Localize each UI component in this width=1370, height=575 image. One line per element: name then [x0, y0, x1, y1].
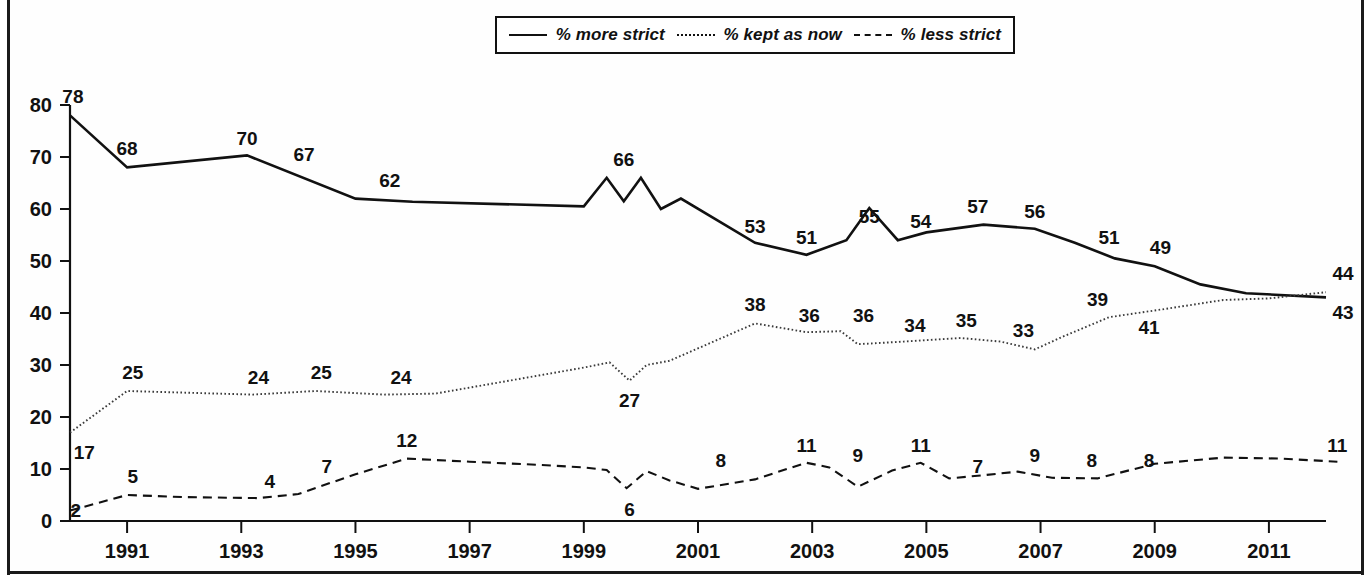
y-tick-label: 20: [30, 406, 52, 428]
x-tick-label: 1999: [562, 540, 607, 562]
data-label-kept-as-now: 35: [956, 310, 978, 331]
data-label-less-strict: 7: [322, 456, 333, 477]
x-tick-label: 1997: [447, 540, 492, 562]
data-label-kept-as-now: 17: [74, 442, 95, 463]
data-label-more-strict: 43: [1333, 302, 1354, 323]
chart-figure: % more strict % kept as now % less stric…: [0, 0, 1370, 575]
x-tick-label: 2009: [1132, 540, 1177, 562]
data-label-layer: 7868706762665351555457565149431725242524…: [62, 86, 1354, 520]
x-tick-label: 1991: [105, 540, 150, 562]
data-label-kept-as-now: 39: [1087, 289, 1108, 310]
data-label-more-strict: 55: [859, 206, 881, 227]
data-label-less-strict: 11: [1327, 435, 1348, 456]
y-tick-label: 10: [30, 458, 52, 480]
series-line-more-strict: [70, 115, 1326, 297]
data-label-kept-as-now: 27: [619, 390, 640, 411]
x-tick-label: 2001: [676, 540, 721, 562]
x-axis: 1991199319951997199920012003200520072009…: [70, 521, 1326, 562]
data-label-less-strict: 6: [624, 499, 635, 520]
data-label-kept-as-now: 36: [799, 305, 820, 326]
data-label-less-strict: 8: [716, 450, 727, 471]
data-label-kept-as-now: 34: [904, 315, 926, 336]
data-label-more-strict: 66: [613, 149, 634, 170]
data-label-more-strict: 56: [1024, 201, 1045, 222]
chart-plot-area: 01020304050607080 1991199319951997199920…: [0, 0, 1370, 575]
y-tick-label: 40: [30, 302, 52, 324]
x-tick-label: 1993: [219, 540, 264, 562]
data-label-kept-as-now: 24: [391, 367, 413, 388]
data-label-kept-as-now: 38: [745, 294, 766, 315]
data-label-less-strict: 12: [396, 430, 417, 451]
data-label-more-strict: 53: [745, 216, 766, 237]
data-label-less-strict: 7: [972, 456, 983, 477]
y-tick-label: 50: [30, 250, 52, 272]
data-label-more-strict: 51: [1099, 227, 1121, 248]
y-tick-label: 30: [30, 354, 52, 376]
data-label-kept-as-now: 44: [1333, 263, 1355, 284]
data-label-more-strict: 67: [294, 144, 315, 165]
y-tick-label: 0: [41, 510, 52, 532]
data-label-less-strict: 8: [1144, 450, 1155, 471]
data-label-more-strict: 68: [117, 138, 138, 159]
y-axis: 01020304050607080: [30, 94, 70, 532]
x-tick-label: 1995: [333, 540, 378, 562]
data-label-more-strict: 51: [796, 227, 818, 248]
data-label-less-strict: 11: [911, 435, 932, 456]
data-label-kept-as-now: 36: [853, 305, 874, 326]
data-label-more-strict: 49: [1150, 237, 1171, 258]
y-tick-label: 70: [30, 146, 52, 168]
data-label-kept-as-now: 33: [1013, 320, 1034, 341]
data-label-more-strict: 62: [379, 170, 400, 191]
y-tick-label: 80: [30, 94, 52, 116]
x-tick-label: 2005: [904, 540, 949, 562]
data-label-kept-as-now: 25: [122, 362, 144, 383]
data-label-kept-as-now: 41: [1138, 317, 1160, 338]
data-label-less-strict: 9: [1030, 445, 1041, 466]
x-tick-label: 2003: [790, 540, 835, 562]
data-label-less-strict: 5: [128, 466, 139, 487]
x-tick-label: 2011: [1247, 540, 1290, 562]
data-label-less-strict: 4: [265, 471, 276, 492]
data-label-less-strict: 11: [796, 435, 817, 456]
data-label-less-strict: 2: [70, 500, 81, 521]
data-label-more-strict: 70: [236, 128, 257, 149]
data-label-less-strict: 8: [1087, 450, 1098, 471]
series-line-kept-as-now: [70, 292, 1326, 432]
y-tick-label: 60: [30, 198, 52, 220]
data-label-more-strict: 78: [62, 86, 83, 107]
data-label-less-strict: 9: [853, 445, 864, 466]
data-label-more-strict: 54: [910, 211, 932, 232]
x-tick-label: 2007: [1018, 540, 1063, 562]
data-label-kept-as-now: 24: [248, 367, 270, 388]
data-label-more-strict: 57: [967, 196, 988, 217]
data-label-kept-as-now: 25: [311, 362, 333, 383]
